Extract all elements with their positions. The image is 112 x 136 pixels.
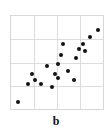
data-point	[45, 64, 49, 68]
gridline-horizontal	[11, 39, 103, 40]
data-point	[72, 78, 76, 82]
data-point	[74, 56, 78, 60]
scatter-plot-figure: b	[0, 0, 112, 136]
data-point	[59, 53, 63, 57]
data-point	[53, 72, 57, 76]
data-point	[56, 62, 60, 66]
data-point	[81, 42, 85, 46]
data-point	[33, 78, 37, 82]
plot-area	[10, 15, 104, 110]
data-point	[96, 28, 100, 32]
data-point	[30, 72, 34, 76]
data-point	[61, 42, 65, 46]
gridline-horizontal	[11, 86, 103, 87]
panel-label: b	[0, 114, 112, 128]
data-point	[26, 82, 30, 86]
data-point	[66, 69, 70, 73]
data-point	[83, 49, 87, 53]
data-point	[50, 85, 54, 89]
data-point	[56, 76, 60, 80]
data-point	[16, 100, 20, 104]
